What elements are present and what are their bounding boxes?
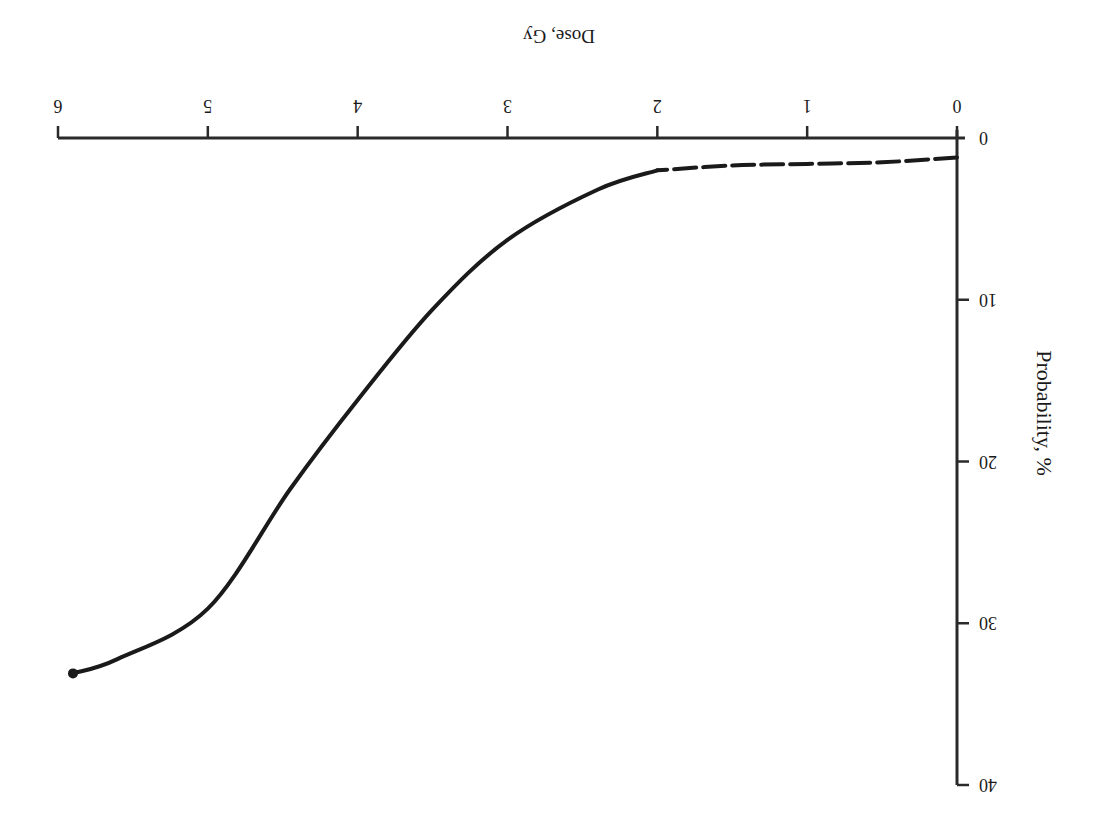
- y-tick-label: 0: [979, 128, 988, 148]
- x-tick-label: 4: [353, 96, 362, 116]
- axis-labels: Dose, Gy Probability, %: [523, 26, 1057, 476]
- y-axis-label: Probability, %: [1032, 350, 1057, 476]
- y-tick-label: 40: [979, 775, 997, 795]
- x-tick-label: 0: [953, 96, 962, 116]
- rotated-chart: 0123456010203040 Dose, Gy Probability, %: [0, 0, 1117, 823]
- axes: 0123456010203040: [54, 96, 998, 795]
- x-tick-label: 3: [503, 96, 512, 116]
- curves: [68, 157, 957, 678]
- solid-curve: [73, 170, 657, 673]
- x-tick-label: 5: [203, 96, 212, 116]
- chart-figure: 0123456010203040 Dose, Gy Probability, %: [0, 0, 1117, 823]
- x-tick-label: 2: [653, 96, 662, 116]
- dashed-curve: [657, 157, 957, 170]
- x-axis-label: Dose, Gy: [523, 26, 595, 47]
- x-tick-label: 1: [803, 96, 812, 116]
- y-tick-label: 20: [979, 452, 997, 472]
- y-tick-label: 10: [979, 290, 997, 310]
- curve-end-point: [68, 668, 78, 678]
- dose-probability-chart: 0123456010203040 Dose, Gy Probability, %: [0, 0, 1117, 823]
- x-tick-label: 6: [54, 96, 63, 116]
- y-tick-label: 30: [979, 613, 997, 633]
